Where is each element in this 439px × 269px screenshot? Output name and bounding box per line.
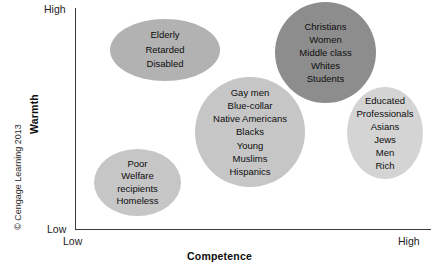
cluster-member-label: Muslims (233, 152, 268, 165)
cluster-member-label: Poor (127, 158, 147, 170)
y-axis-title: Warmth (28, 74, 40, 154)
cluster-member-label: recipients (117, 183, 158, 195)
cluster-member-label: Welfare (121, 170, 154, 182)
cluster-bubble-paternalistic: Elderly Retarded Disabled (110, 19, 220, 81)
cluster-member-label: Christians (304, 20, 346, 33)
cluster-bubble-contemptuous: Poor Welfare recipients Homeless (94, 149, 181, 216)
y-axis-line (75, 8, 76, 230)
stereotype-content-model-chart: High Low Low High Competence Warmth © Ce… (0, 0, 439, 269)
cluster-member-label: Students (307, 72, 345, 85)
x-axis-tick-low: Low (63, 236, 82, 247)
cluster-member-label: Professionals (356, 107, 413, 120)
y-axis-tick-high: High (44, 4, 66, 15)
cluster-bubble-envied: Educated Professionals Asians Jews Men R… (347, 87, 423, 179)
cluster-member-label: Blue-collar (228, 99, 273, 112)
cluster-member-label: Homeless (116, 195, 158, 207)
cluster-member-label: Retarded (145, 43, 184, 58)
cluster-member-label: Hispanics (229, 165, 270, 178)
cluster-member-label: Educated (365, 94, 405, 107)
cluster-member-label: Disabled (147, 57, 184, 72)
cluster-member-label: Whites (311, 59, 340, 72)
y-axis-tick-low: Low (47, 224, 66, 235)
cluster-member-label: Gay men (231, 86, 270, 99)
cluster-member-label: Women (309, 33, 342, 46)
cluster-member-label: Asians (371, 120, 400, 133)
cluster-bubble-ambivalent: Gay men Blue-collar Native Americans Bla… (195, 77, 305, 187)
cluster-member-label: Middle class (299, 46, 351, 59)
cluster-member-label: Young (237, 139, 264, 152)
cluster-member-label: Rich (375, 159, 394, 172)
cluster-member-label: Men (376, 146, 394, 159)
cluster-member-label: Blacks (236, 125, 264, 138)
cluster-bubble-admired: Christians Women Middle class Whites Stu… (275, 2, 376, 103)
x-axis-title: Competence (0, 250, 439, 262)
cluster-member-label: Elderly (150, 28, 179, 43)
cluster-member-label: Native Americans (213, 112, 287, 125)
x-axis-line (75, 229, 431, 230)
x-axis-tick-high: High (398, 236, 420, 247)
copyright-credit: © Cengage Learning 2013 (13, 112, 23, 242)
cluster-member-label: Jews (374, 133, 396, 146)
